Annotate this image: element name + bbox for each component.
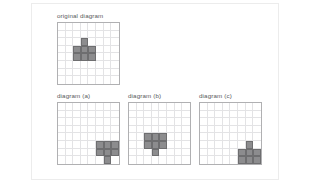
empty-cell bbox=[111, 111, 119, 119]
empty-cell bbox=[208, 141, 216, 149]
empty-cell bbox=[66, 156, 74, 164]
shaded-cell bbox=[152, 141, 160, 149]
shaded-cell bbox=[96, 141, 104, 149]
empty-cell bbox=[111, 69, 119, 77]
empty-cell bbox=[96, 61, 104, 69]
empty-cell bbox=[81, 103, 89, 111]
empty-cell bbox=[66, 133, 74, 141]
empty-cell bbox=[66, 149, 74, 157]
empty-cell bbox=[175, 118, 183, 126]
empty-cell bbox=[96, 31, 104, 39]
empty-cell bbox=[159, 156, 167, 164]
diagram-original: original diagram bbox=[57, 12, 120, 85]
empty-cell bbox=[66, 38, 74, 46]
empty-cell bbox=[182, 103, 190, 111]
empty-cell bbox=[104, 126, 112, 134]
empty-cell bbox=[175, 141, 183, 149]
diagram-a: diagram (a) bbox=[57, 92, 120, 165]
shaded-cell bbox=[246, 156, 254, 164]
empty-cell bbox=[246, 103, 254, 111]
empty-cell bbox=[238, 133, 246, 141]
empty-cell bbox=[182, 141, 190, 149]
empty-cell bbox=[88, 103, 96, 111]
empty-cell bbox=[129, 118, 137, 126]
empty-cell bbox=[111, 118, 119, 126]
empty-cell bbox=[58, 133, 66, 141]
empty-cell bbox=[208, 149, 216, 157]
empty-cell bbox=[167, 149, 175, 157]
empty-cell bbox=[58, 149, 66, 157]
empty-cell bbox=[137, 126, 145, 134]
empty-cell bbox=[88, 133, 96, 141]
empty-cell bbox=[104, 38, 112, 46]
empty-cell bbox=[96, 156, 104, 164]
empty-cell bbox=[66, 46, 74, 54]
empty-cell bbox=[104, 23, 112, 31]
empty-cell bbox=[88, 118, 96, 126]
empty-cell bbox=[58, 53, 66, 61]
shaded-cell bbox=[111, 141, 119, 149]
empty-cell bbox=[66, 118, 74, 126]
empty-cell bbox=[88, 38, 96, 46]
empty-cell bbox=[111, 31, 119, 39]
empty-cell bbox=[208, 126, 216, 134]
empty-cell bbox=[223, 141, 231, 149]
empty-cell bbox=[111, 156, 119, 164]
empty-cell bbox=[230, 133, 238, 141]
empty-cell bbox=[73, 111, 81, 119]
shaded-cell bbox=[104, 141, 112, 149]
empty-cell bbox=[144, 103, 152, 111]
empty-cell bbox=[58, 156, 66, 164]
empty-cell bbox=[73, 103, 81, 111]
empty-cell bbox=[104, 53, 112, 61]
empty-cell bbox=[152, 118, 160, 126]
empty-cell bbox=[246, 118, 254, 126]
empty-cell bbox=[215, 156, 223, 164]
empty-cell bbox=[167, 103, 175, 111]
empty-cell bbox=[104, 111, 112, 119]
empty-cell bbox=[96, 133, 104, 141]
empty-cell bbox=[182, 111, 190, 119]
shaded-cell bbox=[88, 53, 96, 61]
empty-cell bbox=[215, 126, 223, 134]
diagram-original-grid bbox=[57, 22, 120, 85]
empty-cell bbox=[152, 156, 160, 164]
empty-cell bbox=[104, 31, 112, 39]
empty-cell bbox=[73, 69, 81, 77]
empty-cell bbox=[73, 118, 81, 126]
empty-cell bbox=[223, 133, 231, 141]
empty-cell bbox=[111, 126, 119, 134]
empty-cell bbox=[230, 149, 238, 157]
empty-cell bbox=[230, 111, 238, 119]
empty-cell bbox=[167, 156, 175, 164]
empty-cell bbox=[58, 46, 66, 54]
empty-cell bbox=[200, 126, 208, 134]
empty-cell bbox=[215, 149, 223, 157]
empty-cell bbox=[208, 111, 216, 119]
empty-cell bbox=[253, 118, 261, 126]
empty-cell bbox=[104, 61, 112, 69]
empty-cell bbox=[182, 156, 190, 164]
empty-cell bbox=[182, 118, 190, 126]
shaded-cell bbox=[246, 141, 254, 149]
empty-cell bbox=[137, 103, 145, 111]
empty-cell bbox=[73, 23, 81, 31]
empty-cell bbox=[137, 156, 145, 164]
empty-cell bbox=[129, 103, 137, 111]
empty-cell bbox=[81, 23, 89, 31]
shaded-cell bbox=[73, 46, 81, 54]
empty-cell bbox=[81, 111, 89, 119]
empty-cell bbox=[144, 149, 152, 157]
empty-cell bbox=[58, 38, 66, 46]
shaded-cell bbox=[246, 149, 254, 157]
empty-cell bbox=[88, 76, 96, 84]
empty-cell bbox=[81, 133, 89, 141]
shaded-cell bbox=[81, 46, 89, 54]
empty-cell bbox=[159, 149, 167, 157]
empty-cell bbox=[129, 149, 137, 157]
empty-cell bbox=[81, 31, 89, 39]
empty-cell bbox=[200, 103, 208, 111]
empty-cell bbox=[88, 23, 96, 31]
shaded-cell bbox=[253, 149, 261, 157]
shape-layer bbox=[200, 103, 261, 164]
